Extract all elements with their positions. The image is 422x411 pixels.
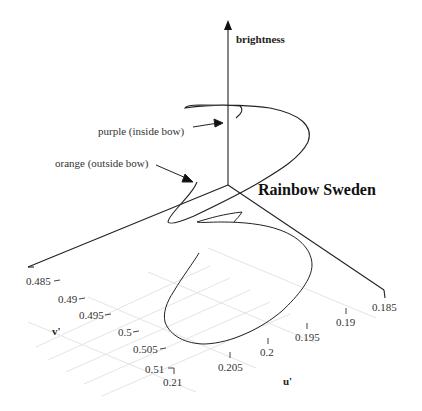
chart-canvas xyxy=(0,0,422,411)
u-tick-02: 0.2 xyxy=(260,347,274,358)
u-tick-0185: 0.185 xyxy=(372,302,397,313)
v-tick-049: 0.49 xyxy=(58,294,77,305)
v-tick-0485: 0.485 xyxy=(26,276,51,287)
u-axis-line xyxy=(228,185,384,290)
v-tick-0505: 0.505 xyxy=(133,344,158,355)
v-tick-0495: 0.495 xyxy=(79,310,104,321)
v-tick-05: 0.5 xyxy=(118,327,132,338)
brightness-axis-label: brightness xyxy=(236,34,285,45)
u-tick-0195: 0.195 xyxy=(295,332,320,343)
rainbow-curve-3d xyxy=(168,105,309,223)
orange-annotation: orange (outside bow) xyxy=(55,158,148,169)
u-tick-021: 0.21 xyxy=(163,377,182,388)
purple-annotation: purple (inside bow) xyxy=(98,126,184,137)
rainbow-curve-shadow xyxy=(164,212,312,344)
u-tick-0205: 0.205 xyxy=(218,362,243,373)
floor-grid xyxy=(28,248,376,396)
chart-title: Rainbow Sweden xyxy=(258,182,376,198)
v-tick-051: 0.51 xyxy=(145,364,164,375)
u-tick-019: 0.19 xyxy=(336,317,355,328)
brightness-arrowhead-icon xyxy=(224,20,232,30)
v-axis-label: v' xyxy=(52,326,61,337)
u-axis-label: u' xyxy=(283,376,292,387)
